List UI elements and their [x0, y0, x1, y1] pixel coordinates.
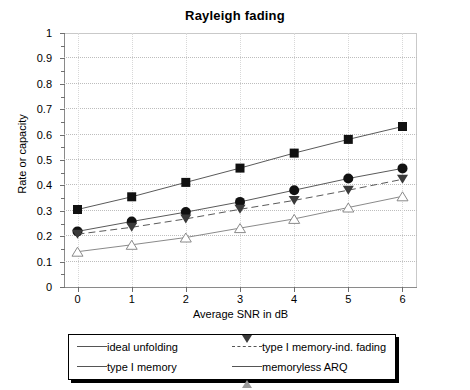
marker-filled-square-icon: [73, 205, 82, 214]
marker-open-triangle-up-icon: [343, 203, 354, 212]
marker-open-triangle-up-icon: [235, 224, 246, 233]
marker-open-triangle-up-icon: [397, 192, 408, 201]
legend-marker-filled-triangle-down-icon: [232, 340, 262, 354]
chart-figure: Rayleigh fading 00.10.20.30.40.50.60.70.…: [0, 0, 470, 390]
marker-filled-square-icon: [344, 135, 353, 144]
legend-marker-open-triangle-up-icon: [232, 360, 262, 374]
legend-label-type-i-memory: type I memory: [107, 361, 177, 373]
marker-filled-square-icon: [127, 192, 136, 201]
legend-entry-type-i-memory-ind-fading[interactable]: type I memory-ind. fading: [232, 337, 386, 357]
series-plot-layer: [0, 0, 470, 390]
marker-open-triangle-up-icon: [289, 214, 300, 223]
marker-filled-circle-icon: [343, 174, 353, 184]
legend-label-type-i-memory-ind-fading: type I memory-ind. fading: [262, 341, 386, 353]
legend-marker-filled-circle-icon: [77, 360, 107, 374]
y-axis-title: Rate or capacity: [16, 89, 28, 219]
marker-filled-circle-icon: [398, 163, 408, 173]
legend-label-ideal-unfolding: ideal unfolding: [107, 341, 178, 353]
marker-filled-triangle-down-icon: [343, 186, 354, 195]
marker-filled-square-icon: [236, 164, 245, 173]
marker-filled-triangle-down-icon: [180, 214, 191, 223]
marker-filled-square-icon: [290, 149, 299, 158]
marker-open-triangle-up-icon: [180, 233, 191, 242]
marker-filled-triangle-down-icon: [235, 205, 246, 214]
legend-entry-memoryless-arq[interactable]: memoryless ARQ: [232, 357, 348, 377]
x-axis-title: Average SNR in dB: [64, 308, 417, 320]
marker-filled-circle-icon: [289, 185, 299, 195]
legend-entry-ideal-unfolding[interactable]: ideal unfolding: [77, 337, 178, 357]
marker-filled-square-icon: [181, 178, 190, 187]
legend-entry-type-i-memory[interactable]: type I memory: [77, 357, 177, 377]
legend: ideal unfolding type I memory type I mem…: [68, 334, 396, 380]
marker-filled-triangle-down-icon: [289, 196, 300, 205]
marker-filled-triangle-down-icon: [397, 175, 408, 184]
legend-label-memoryless-arq: memoryless ARQ: [262, 361, 348, 373]
legend-marker-filled-square-icon: [77, 340, 107, 354]
marker-filled-square-icon: [398, 122, 407, 131]
